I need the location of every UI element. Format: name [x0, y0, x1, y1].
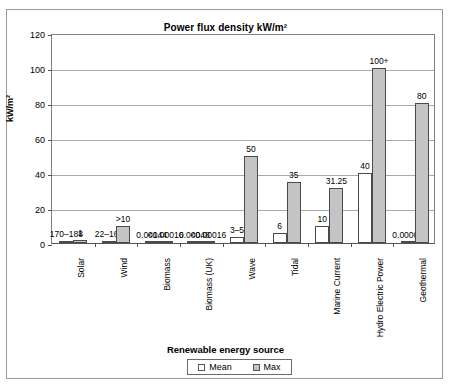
legend-label-max: Max — [264, 362, 281, 372]
y-tick-label: 60 — [35, 136, 45, 145]
bar-value-label: 100+ — [369, 57, 388, 66]
x-axis-label: Renewable energy source — [7, 344, 444, 355]
y-tick — [48, 105, 52, 106]
y-tick — [48, 140, 52, 141]
y-tick — [48, 35, 52, 36]
x-tick — [265, 243, 266, 247]
x-tick — [137, 243, 138, 247]
y-tick — [48, 175, 52, 176]
bar-value-label: 1 — [78, 229, 83, 238]
y-tick-label: 100 — [30, 66, 45, 75]
legend-item-max: Max — [253, 362, 281, 372]
bar-max — [116, 226, 130, 244]
chart-legend: Mean Max — [187, 359, 292, 375]
x-category-label: Geothermal — [418, 258, 428, 302]
legend-label-mean: Mean — [209, 362, 232, 372]
x-tick — [180, 243, 181, 247]
y-tick — [48, 210, 52, 211]
bar-value-label: >10 — [116, 215, 130, 224]
y-axis-label: kW/m² — [5, 95, 15, 122]
chart-frame: Power flux density kW/m² kW/m² 020406080… — [6, 9, 443, 379]
bar-max — [287, 182, 301, 243]
x-category-label: Hydro Electric Power — [375, 258, 385, 337]
bar-mean — [59, 241, 73, 243]
y-tick-label: 0 — [40, 241, 45, 250]
legend-swatch-max — [253, 364, 260, 371]
x-category-label: Marine Current — [332, 258, 342, 315]
bar-value-label: 35 — [289, 171, 298, 180]
x-category-label: Biomass — [162, 258, 172, 291]
bar-value-label: 6 — [277, 222, 282, 231]
bar-max — [244, 156, 258, 244]
bar-value-label: 3–5 — [230, 226, 244, 235]
bar-value-label: 10 — [318, 215, 327, 224]
bar-mean — [230, 237, 244, 243]
bar-max — [73, 240, 87, 243]
bar-value-label: 31.25 — [326, 177, 347, 186]
legend-item-mean: Mean — [198, 362, 232, 372]
bar-mean — [102, 241, 116, 243]
x-tick — [223, 243, 224, 247]
bar-mean — [358, 173, 372, 243]
y-tick-label: 20 — [35, 206, 45, 215]
bar-max — [201, 241, 215, 243]
x-category-label: Solar — [76, 258, 86, 278]
bar-mean — [145, 241, 159, 243]
plot-area: 020406080100120 170–188122–168>100.00144… — [51, 34, 435, 244]
chart-title: Power flux density kW/m² — [7, 22, 444, 33]
bar-max — [159, 241, 173, 243]
bar-mean — [315, 226, 329, 244]
x-category-label: Wind — [119, 258, 129, 277]
bar-max — [329, 188, 343, 243]
y-tick — [48, 245, 52, 246]
legend-swatch-mean — [198, 364, 205, 371]
bar-mean — [273, 233, 287, 244]
x-tick — [393, 243, 394, 247]
bar-value-label: 80 — [417, 92, 426, 101]
bar-mean — [401, 241, 415, 243]
x-tick — [95, 243, 96, 247]
x-category-label: Biomass (UK) — [204, 258, 214, 310]
bar-max — [372, 68, 386, 243]
bar-value-label: 50 — [246, 145, 255, 154]
y-tick-label: 80 — [35, 101, 45, 110]
bar-value-label: <0.00016 — [190, 231, 226, 240]
y-tick-label: 40 — [35, 171, 45, 180]
x-tick — [351, 243, 352, 247]
x-category-label: Tidal — [290, 258, 300, 276]
bar-value-label: 40 — [360, 162, 369, 171]
bar-mean — [187, 241, 201, 243]
x-category-label: Wave — [247, 258, 257, 279]
y-tick-label: 120 — [30, 31, 45, 40]
y-tick — [48, 70, 52, 71]
x-tick — [308, 243, 309, 247]
bar-max — [415, 103, 429, 243]
